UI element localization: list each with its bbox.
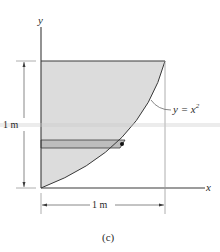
- parabolic-area-figure: y x 1 m 1 m y = x2 (c): [0, 0, 220, 252]
- bottom-dim-arrow-right-icon: [159, 204, 164, 207]
- horizontal-dimension-label: 1 m: [92, 199, 108, 210]
- curve-equation-label: y = x2: [172, 102, 200, 115]
- diagram-canvas: y x 1 m 1 m y = x2 (c): [0, 0, 220, 252]
- left-dim-arrow-down-icon: [23, 182, 26, 187]
- left-dim-arrow-up-icon: [23, 62, 26, 67]
- bottom-dim-arrow-left-icon: [42, 204, 47, 207]
- x-axis-label: x: [205, 181, 211, 193]
- curve-equation-lhs: y = x: [172, 103, 196, 115]
- y-axis-label: y: [37, 14, 43, 26]
- curve-equation-exponent: 2: [196, 102, 200, 110]
- strip-point-dot: [120, 142, 124, 146]
- figure-caption: (c): [102, 231, 115, 244]
- vertical-dimension-label: 1 m: [3, 119, 19, 130]
- equation-leader-line: [151, 100, 171, 110]
- scan-band: [0, 123, 220, 127]
